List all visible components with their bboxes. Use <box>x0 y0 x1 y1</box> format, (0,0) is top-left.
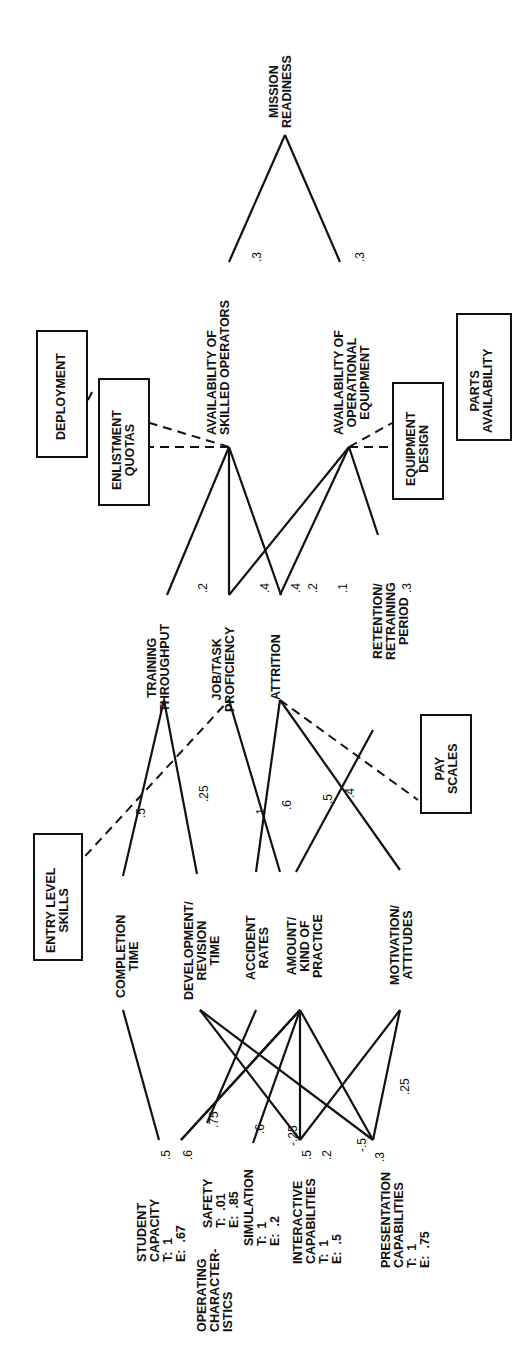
box-enlistment-quotas-label: ENLISTMENT QUOTAS <box>111 410 137 490</box>
link-weight: .5 <box>300 1150 314 1160</box>
solid-link <box>123 1010 159 1140</box>
link-weight: .4 <box>258 583 272 593</box>
node-mission-readiness: MISSION READINESS <box>268 55 294 128</box>
box-pay-scales: PAY SCALES <box>420 714 472 814</box>
link-weight: .5 <box>321 794 335 804</box>
link-weight: .1 <box>254 808 268 818</box>
solid-link <box>167 447 229 595</box>
box-parts-availability-label: PARTS AVAILABILITY <box>469 349 495 433</box>
box-parts-availability: PARTS AVAILABILITY <box>456 313 512 441</box>
solid-link <box>280 700 400 870</box>
node-job-task-proficiency: JOB/TASK PROFICIENCY <box>211 627 237 712</box>
link-weight: .2 <box>196 583 210 593</box>
link-weight: .3 <box>373 1152 387 1162</box>
node-presentation-capabilities: PRESENTATION CAPABILITIES T: 1 E: .75 <box>380 1172 432 1268</box>
solid-link <box>181 1010 300 1140</box>
box-deployment-label: DEPLOYMENT <box>55 353 68 440</box>
link-weight: .5 <box>159 1150 173 1160</box>
solid-link <box>300 1010 400 1140</box>
link-weight: .4 <box>343 788 357 798</box>
diagram-canvas <box>0 0 520 1372</box>
link-weight: .25 <box>197 785 211 802</box>
box-equipment-design: EQUIPMENT DESIGN <box>392 382 444 500</box>
link-weight: .3 <box>400 583 414 593</box>
dashed-link <box>88 390 93 400</box>
solid-link <box>349 447 378 535</box>
link-weight: .75 <box>207 1111 221 1128</box>
node-amount-kind-of-practice: AMOUNT/ KIND OF PRACTICE <box>286 914 325 978</box>
node-simulation: SIMULATION T: 1 E: .2 <box>243 1169 282 1246</box>
node-training-throughput: TRAINING THROUGHPUT <box>146 624 172 712</box>
node-skilled-operators: AVAILABILITY OF SKILLED OPERATORS <box>206 300 232 435</box>
link-weight: .3 <box>250 252 264 262</box>
link-weight: -.25 <box>286 1125 300 1146</box>
box-equipment-design-label: EQUIPMENT DESIGN <box>405 412 431 486</box>
link-weight: .5 <box>134 808 148 818</box>
node-development-revision-time: DEVELOPMENT/ REVISION TIME <box>183 901 222 1000</box>
solid-link <box>164 700 197 874</box>
link-weight: .6 <box>280 800 294 810</box>
box-entry-level-skills: ENTRY LEVEL SKILLS <box>33 833 83 961</box>
node-retention-retraining: RETENTION/ RETRAINING PERIOD <box>372 582 411 660</box>
node-operating-characteristics: OPERATING CHARACTER- ISTICS <box>196 1249 235 1332</box>
link-weight: .2 <box>306 583 320 593</box>
node-accident-rates: ACCIDENT RATES <box>245 915 271 980</box>
link-weight: .3 <box>353 252 367 262</box>
solid-link <box>300 1010 373 1140</box>
link-weight: .6 <box>253 1124 267 1134</box>
node-completion-time: COMPLETION TIME <box>115 915 141 998</box>
solid-link <box>123 700 164 876</box>
solid-link <box>229 447 281 595</box>
box-entry-level-skills-label: ENTRY LEVEL SKILLS <box>45 868 71 953</box>
solid-link <box>285 135 340 262</box>
link-weight: -.5 <box>355 1138 369 1152</box>
solid-link <box>229 135 285 262</box>
solid-link <box>200 1010 373 1140</box>
solid-link <box>229 700 280 872</box>
link-weight: .6 <box>181 1150 195 1160</box>
node-interactive-capabilities: INTERACTIVE CAPABILITIES T: 1 E: .5 <box>292 1178 344 1264</box>
box-deployment: DEPLOYMENT <box>36 330 88 458</box>
solid-link <box>229 447 349 595</box>
node-attrition: ATTRITION <box>270 634 283 700</box>
link-weight: .2 <box>320 1150 334 1160</box>
node-safety: SAFETY T: .01 E: .85 <box>202 1179 241 1228</box>
node-operational-equipment: AVAILABILITY OF OPERATIONAL EQUIPMENT <box>333 330 372 435</box>
solid-link <box>373 1010 400 1140</box>
link-weight: .25 <box>398 1078 412 1095</box>
node-student-capacity: STUDENT CAPACITY T: 1 E: .67 <box>136 1199 188 1262</box>
link-weight: .4 <box>289 583 303 593</box>
node-motivation-attitudes: MOTIVATION/ ATTITUDES <box>389 905 415 985</box>
box-pay-scales-label: PAY SCALES <box>434 743 460 794</box>
link-weight: .1 <box>336 583 350 593</box>
solid-link <box>256 700 280 872</box>
dashed-link <box>280 700 418 800</box>
box-enlistment-quotas: ENLISTMENT QUOTAS <box>98 378 150 506</box>
